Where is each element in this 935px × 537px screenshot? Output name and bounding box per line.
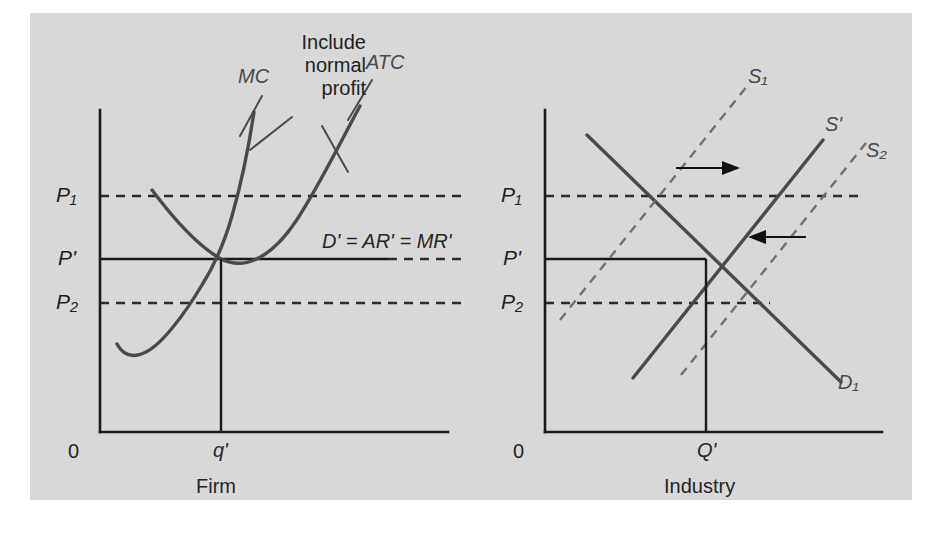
right-arrow-icon — [722, 161, 740, 175]
firm-price-label-p1: P₁ — [56, 184, 77, 205]
industry-origin-label: 0 — [513, 441, 524, 461]
firm-panel-caption: Firm — [196, 476, 236, 496]
industry-panel-caption: Industry — [664, 476, 735, 496]
industry-s-prime-label: S' — [825, 114, 842, 134]
industry-d1-label: D₁ — [838, 372, 859, 392]
firm-price-label-p2: P₂ — [56, 291, 78, 312]
firm-atc-label: ATC — [366, 52, 405, 72]
industry-s2-label: S₂ — [866, 140, 887, 160]
figure-drawing — [0, 0, 935, 537]
firm-normal-profit-note: Include normal profit — [248, 31, 368, 101]
industry-supply-curve-s1 — [560, 85, 748, 320]
firm-price-label-p-prime: P' — [58, 247, 76, 268]
firm-demand-label: D' = AR' = MR' — [322, 231, 452, 251]
industry-price-label-p-prime: P' — [503, 247, 521, 268]
firm-note-leader-line-mc — [250, 117, 292, 150]
firm-mc-curve — [117, 112, 254, 356]
figure-root: P₁ P' P₂ MC ATC Include normal profit D'… — [0, 0, 935, 537]
firm-origin-label: 0 — [68, 441, 79, 461]
industry-s1-label: S₁ — [748, 66, 768, 86]
industry-price-label-p1: P₁ — [501, 184, 522, 205]
industry-supply-curve-s2 — [681, 143, 866, 375]
industry-price-label-p2: P₂ — [501, 291, 523, 312]
industry-quantity-label: Q' — [697, 440, 716, 460]
firm-quantity-label: q' — [213, 440, 228, 460]
